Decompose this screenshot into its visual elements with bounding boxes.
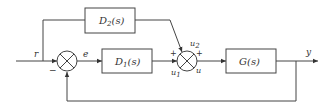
block-diagram: r D2(s) − e D1(s) + u1 u2 + u G(s) — [0, 0, 334, 112]
summing-junction-2 — [177, 51, 197, 71]
signal-e-label: e — [83, 49, 88, 59]
summing-junction-1 — [57, 51, 77, 71]
signal-u1-sub: 1 — [176, 71, 180, 79]
block-d1-name: D — [114, 56, 123, 67]
block-d1: D1(s) — [102, 49, 152, 73]
block-d2: D2(s) — [85, 8, 135, 33]
block-g-label: G(s) — [239, 56, 260, 67]
signal-u-label: u — [196, 66, 201, 75]
block-d1-arg: (s) — [128, 56, 141, 67]
block-d2-name: D — [98, 15, 107, 26]
block-g: G(s) — [226, 49, 276, 73]
signal-y-label: y — [305, 47, 312, 57]
d2-output-line — [135, 20, 182, 52]
sum2-plus-u2: + — [196, 49, 203, 58]
sum2-plus-u1: + — [170, 49, 177, 58]
signal-r-label: r — [34, 49, 39, 59]
block-d2-arg: (s) — [112, 15, 125, 26]
sum1-minus-sign: − — [49, 65, 57, 75]
svg-text:u1: u1 — [171, 68, 181, 79]
